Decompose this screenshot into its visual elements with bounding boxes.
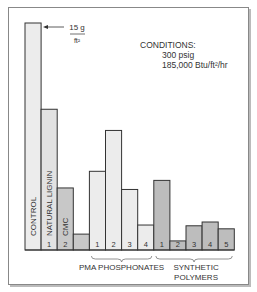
group-label: SYNTHETIC	[173, 263, 219, 272]
bar-number: 2	[63, 240, 67, 249]
bar-number: 5	[224, 240, 228, 249]
bar-pma-1	[89, 171, 105, 250]
group-brace	[91, 256, 151, 262]
bar-number: 1	[160, 240, 164, 249]
bar-number: 2	[111, 240, 115, 249]
bar-number: 3	[192, 240, 196, 249]
bar-label: NATURAL LIGNIN	[45, 170, 54, 236]
group-label: PMA PHOSPHONATES	[79, 263, 164, 272]
bar-number: 1	[95, 240, 99, 249]
conditions-heading: CONDITIONS:	[140, 40, 228, 50]
bar-number: 1	[47, 240, 51, 249]
bar-number: 4	[144, 240, 148, 249]
annotation-value: 15 g	[69, 23, 85, 32]
bar-number: 4	[208, 240, 212, 249]
bar-label: CMC	[61, 218, 70, 236]
group-brace	[156, 256, 233, 262]
bar-blank	[73, 234, 89, 250]
conditions-box: CONDITIONS: 300 psig 185,000 Btu/ft²/hr	[140, 40, 228, 70]
annotation-unit: ft²	[74, 37, 81, 44]
bar-pma-2	[106, 130, 122, 250]
conditions-heat-flux: 185,000 Btu/ft²/hr	[140, 60, 228, 70]
group-label: POLYMERS	[174, 273, 218, 282]
conditions-pressure: 300 psig	[140, 50, 228, 60]
bar-number: 2	[176, 240, 180, 249]
bar-number: 3	[128, 240, 132, 249]
bar-label: CONTROL	[29, 196, 38, 236]
